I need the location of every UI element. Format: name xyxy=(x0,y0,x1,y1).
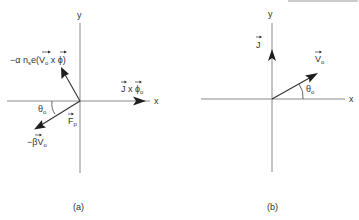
svg-text:−α nse(Vo x ϕ): −α nse(Vo x ϕ) xyxy=(10,55,66,66)
net-force-label: Fp xyxy=(68,113,78,128)
lorentz-force-vector xyxy=(63,71,80,101)
panel-b-caption: (b) xyxy=(267,202,278,212)
j-cross-phi-label: J x ϕo xyxy=(121,81,144,96)
lorentz-force-label: −α nse(Vo x ϕ) xyxy=(10,51,67,67)
velocity-label: Vo xyxy=(315,51,325,66)
svg-text:J x ϕo: J x ϕo xyxy=(121,84,144,95)
svg-text:Vo: Vo xyxy=(315,54,325,65)
svg-text:θo: θo xyxy=(38,104,47,115)
panel-b-y-label: y xyxy=(268,9,273,19)
vector-diagram-figure: y x −α nse(Vo x ϕ) J x ϕo xyxy=(0,0,359,220)
clipped-header-fragment xyxy=(288,0,358,2)
panel-a-angle-arc xyxy=(52,101,55,114)
svg-text:J: J xyxy=(256,40,261,50)
friction-force-label: −βVo xyxy=(27,134,47,149)
panel-a: y x −α nse(Vo x ϕ) J x ϕo xyxy=(7,10,159,212)
panel-a-y-label: y xyxy=(77,10,82,20)
velocity-arrowhead-icon xyxy=(305,73,318,83)
svg-text:Fp: Fp xyxy=(68,116,78,127)
panel-b-angle-arc xyxy=(299,84,303,99)
panel-a-x-label: x xyxy=(154,96,159,106)
current-j-label: J xyxy=(256,36,262,51)
panel-b-x-label: x xyxy=(349,94,354,104)
panel-a-angle-label: θo xyxy=(38,104,47,115)
friction-force-arrowhead-icon xyxy=(34,120,46,130)
panel-b-angle-label: θo xyxy=(306,84,315,95)
svg-text:−βVo: −βVo xyxy=(27,137,47,148)
lorentz-force-arrowhead-icon xyxy=(61,67,69,79)
panel-a-caption: (a) xyxy=(73,202,84,212)
panel-b: y x J Vo θo (b) xyxy=(201,9,354,212)
svg-text:θo: θo xyxy=(306,84,315,95)
